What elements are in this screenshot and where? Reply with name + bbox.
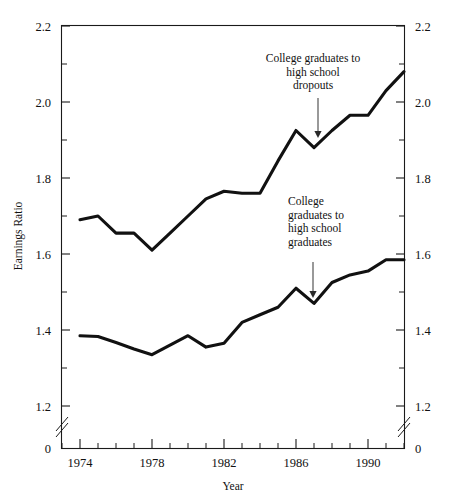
y-zero-label-left: 0 <box>45 442 51 456</box>
y-tick-label-left: 2.2 <box>35 20 51 34</box>
x-axis-labels: 19741978198219861990 <box>68 456 381 470</box>
y-tick-label-left: 1.8 <box>35 172 51 186</box>
x-tick-label: 1982 <box>212 456 237 470</box>
y-tick-label-left: 1.6 <box>35 248 51 262</box>
x-axis-title: Year <box>222 480 243 492</box>
upper-annotation-line: College graduates to <box>266 52 361 65</box>
chart-figure: 1.21.41.61.82.02.2 1.21.41.61.82.02.2 19… <box>0 0 452 500</box>
y-tick-label-left: 1.4 <box>35 324 51 338</box>
plot-frame <box>62 26 405 449</box>
y-tick-label-right: 1.6 <box>415 248 431 262</box>
y-axis-left-labels: 1.21.41.61.82.02.2 <box>35 20 51 414</box>
y-axis-right-labels: 1.21.41.61.82.02.2 <box>415 20 431 414</box>
upper-annotation-line: high school <box>286 66 339 79</box>
upper-annotation-arrow-head <box>314 131 321 138</box>
y-zero-label-right: 0 <box>415 442 421 456</box>
lower-annotation-line: high school <box>288 222 341 235</box>
data-series-group <box>80 72 404 355</box>
earnings-ratio-line-chart: 1.21.41.61.82.02.2 1.21.41.61.82.02.2 19… <box>0 0 452 500</box>
annotation-group: College graduates tohigh schooldropoutsC… <box>266 52 361 298</box>
lower-annotation-line: College <box>288 195 324 208</box>
y-tick-label-right: 2.2 <box>415 20 431 34</box>
lower-annotation-line: graduates to <box>288 209 344 222</box>
series-line-grads-to-hs-grads <box>80 260 404 355</box>
upper-annotation-line: dropouts <box>293 79 334 92</box>
lower-annotation-arrow-head <box>309 291 316 298</box>
y-tick-label-right: 1.2 <box>415 400 431 414</box>
x-tick-label: 1974 <box>68 456 94 470</box>
y-tick-label-right: 1.4 <box>415 324 431 338</box>
y-axis-title: Earnings Ratio <box>12 201 25 270</box>
x-tick-label: 1978 <box>140 456 165 470</box>
x-tick-label: 1986 <box>284 456 309 470</box>
y-tick-label-right: 1.8 <box>415 172 431 186</box>
y-axis-right-ticks <box>396 26 404 406</box>
series-line-grads-to-dropouts <box>80 72 404 251</box>
y-tick-label-left: 1.2 <box>35 400 51 414</box>
y-tick-label-right: 2.0 <box>415 96 431 110</box>
upper-annotation: College graduates tohigh schooldropouts <box>266 52 361 138</box>
x-tick-label: 1990 <box>356 456 381 470</box>
lower-annotation-line: graduates <box>288 236 333 249</box>
x-axis-ticks <box>62 439 404 448</box>
y-tick-label-left: 2.0 <box>35 96 51 110</box>
y-axis-left-ticks <box>62 26 70 406</box>
axis-break-marks <box>56 417 410 437</box>
